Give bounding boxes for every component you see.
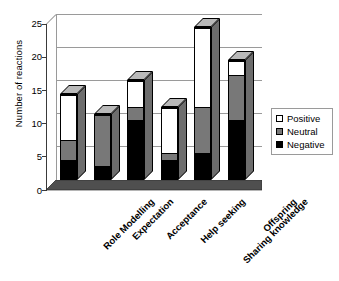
- y-tick-label-5: 5: [24, 152, 42, 162]
- bar-offspring: [228, 60, 245, 180]
- bar-role-modelling: [60, 94, 77, 180]
- y-tick-mark-25: [42, 24, 47, 25]
- legend-item-neutral: Neutral: [276, 125, 329, 138]
- bar-side-face: [111, 105, 120, 180]
- bar-segment-negative: [195, 153, 210, 179]
- y-tick-mark-20: [42, 57, 47, 58]
- bar-segment-positive: [128, 81, 143, 107]
- bar-segment-negative: [61, 160, 76, 179]
- bar-side-face: [178, 98, 187, 180]
- bar-side-face: [77, 85, 86, 180]
- bar-front-face: [228, 60, 245, 180]
- bar-acceptance: [127, 80, 144, 180]
- bar-segment-neutral: [61, 140, 76, 159]
- legend-swatch-negative-icon: [276, 141, 283, 148]
- y-tick-label-25: 25: [24, 19, 42, 29]
- bar-segment-negative: [95, 166, 110, 179]
- bar-front-face: [127, 80, 144, 180]
- x-label-sharing-knowledge: Sharing knowledge: [240, 196, 309, 265]
- legend-label-negative: Negative: [287, 140, 325, 150]
- bar-front-face: [60, 94, 77, 180]
- legend-label-neutral: Neutral: [287, 127, 318, 137]
- axis-depth-line-top: [46, 14, 57, 25]
- bar-segment-positive: [162, 108, 177, 153]
- bar-segment-neutral: [128, 107, 143, 120]
- y-tick-label-0: 0: [24, 186, 42, 196]
- legend-item-positive: Positive: [276, 112, 329, 125]
- legend-swatch-neutral-icon: [276, 128, 283, 135]
- bar-front-face: [194, 27, 211, 180]
- y-tick-mark-5: [42, 156, 47, 157]
- bar-segment-positive: [229, 61, 244, 74]
- y-axis-line: [46, 24, 47, 190]
- bar-segment-neutral: [195, 107, 210, 153]
- bar-segment-negative: [128, 120, 143, 179]
- legend-item-negative: Negative: [276, 138, 329, 151]
- legend-label-positive: Positive: [287, 114, 320, 124]
- legend-swatch-positive-icon: [276, 115, 283, 122]
- bar-sharing-knowledge: [194, 27, 211, 180]
- bar-segment-neutral: [229, 75, 244, 121]
- y-axis-title: Number of reactions: [13, 19, 24, 149]
- stacked-bar-chart: Number of reactions 25 20 15 10 5 0 Role…: [0, 0, 339, 281]
- y-tick-label-15: 15: [24, 86, 42, 96]
- y-tick-label-10: 10: [24, 119, 42, 129]
- y-tick-mark-15: [42, 90, 47, 91]
- bar-front-face: [94, 114, 111, 180]
- bar-front-face: [161, 107, 178, 180]
- bar-segment-negative: [229, 120, 244, 179]
- y-tick-label-20: 20: [24, 52, 42, 62]
- bar-segment-positive: [61, 95, 76, 140]
- x-axis-category-labels: Role ModellingExpectationAcceptanceHelp …: [46, 190, 276, 260]
- y-tick-mark-10: [42, 123, 47, 124]
- bar-expectation: [94, 114, 111, 180]
- bar-segment-negative: [162, 160, 177, 179]
- bar-side-face: [245, 51, 254, 180]
- bar-side-face: [211, 18, 220, 180]
- chart-floor: [46, 180, 262, 190]
- legend: Positive Neutral Negative: [271, 108, 333, 155]
- bar-help-seeking: [161, 107, 178, 180]
- bar-side-face: [144, 71, 153, 180]
- gridline-20: [56, 47, 262, 48]
- bar-segment-neutral: [95, 115, 110, 167]
- bar-segment-positive: [195, 28, 210, 107]
- plot-area: [46, 14, 262, 190]
